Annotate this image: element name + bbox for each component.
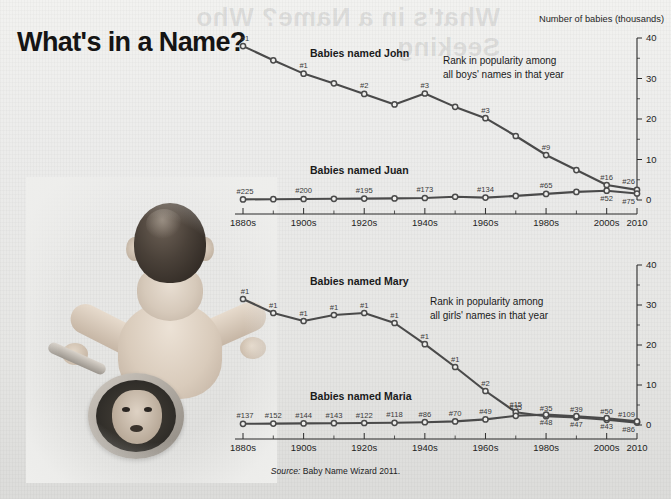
svg-text:#52: #52 (600, 194, 613, 203)
svg-text:Babies named John: Babies named John (310, 47, 409, 59)
svg-text:#173: #173 (416, 185, 433, 194)
svg-text:0: 0 (646, 194, 651, 205)
svg-text:1940s: 1940s (412, 442, 438, 453)
charts-svg: 01020304020101880s1900s1920s1940s1960s19… (0, 0, 671, 499)
svg-text:1900s: 1900s (291, 442, 317, 453)
svg-text:30: 30 (646, 73, 657, 84)
svg-text:1960s: 1960s (473, 442, 499, 453)
svg-text:#1: #1 (299, 309, 307, 318)
svg-text:#134: #134 (477, 185, 494, 194)
svg-text:10: 10 (646, 154, 657, 165)
svg-text:#195: #195 (356, 186, 373, 195)
svg-text:40: 40 (646, 259, 657, 270)
svg-text:40: 40 (646, 32, 657, 43)
svg-text:#1: #1 (299, 61, 307, 70)
svg-text:20: 20 (646, 339, 657, 350)
svg-text:2010: 2010 (626, 442, 647, 453)
svg-text:1880s: 1880s (230, 442, 256, 453)
svg-text:30: 30 (646, 299, 657, 310)
svg-text:10: 10 (646, 379, 657, 390)
svg-text:#1: #1 (360, 301, 368, 310)
svg-text:2000s: 2000s (594, 442, 620, 453)
svg-text:#49: #49 (479, 407, 492, 416)
svg-text:1960s: 1960s (473, 217, 499, 228)
svg-text:Babies named Maria: Babies named Maria (310, 390, 412, 402)
svg-text:#1: #1 (269, 301, 277, 310)
svg-text:#48: #48 (540, 418, 553, 427)
svg-text:#9: #9 (542, 143, 550, 152)
unit-label: Number of babies (thousands) (539, 14, 664, 24)
svg-text:#1: #1 (451, 355, 459, 364)
svg-text:1980s: 1980s (533, 442, 559, 453)
chart-girls-names: 01020304020101880s1900s1920s1940s1960s19… (230, 259, 657, 453)
svg-text:all girls' names in that year: all girls' names in that year (430, 310, 549, 321)
svg-text:#2: #2 (481, 379, 489, 388)
source-line: Source: Baby Name Wizard 2011. (0, 466, 671, 476)
svg-text:2000s: 2000s (594, 217, 620, 228)
svg-text:#143: #143 (325, 411, 342, 420)
svg-text:#75: #75 (622, 197, 635, 206)
svg-text:#152: #152 (265, 411, 282, 420)
source-prefix: Source: (271, 466, 301, 476)
svg-text:Babies named Mary: Babies named Mary (310, 275, 409, 287)
svg-text:Babies named Juan: Babies named Juan (310, 164, 409, 176)
svg-text:#200: #200 (295, 186, 312, 195)
svg-text:all boys' names in that year: all boys' names in that year (443, 69, 565, 80)
svg-text:1920s: 1920s (351, 442, 377, 453)
svg-text:1980s: 1980s (533, 217, 559, 228)
svg-text:Rank in popularity among: Rank in popularity among (443, 55, 556, 66)
svg-text:#47: #47 (570, 420, 583, 429)
svg-text:#1: #1 (421, 332, 429, 341)
svg-text:#1: #1 (390, 311, 398, 320)
svg-text:#144: #144 (295, 411, 312, 420)
svg-text:#39: #39 (570, 405, 583, 414)
svg-text:1920s: 1920s (351, 217, 377, 228)
svg-text:#118: #118 (386, 410, 402, 419)
svg-text:#65: #65 (540, 181, 553, 190)
svg-text:#70: #70 (449, 409, 462, 418)
svg-text:#122: #122 (356, 411, 373, 420)
svg-text:0: 0 (646, 419, 651, 430)
chart-boys-names: 01020304020101880s1900s1920s1940s1960s19… (230, 32, 657, 228)
svg-text:#3: #3 (481, 106, 489, 115)
svg-text:#109: #109 (618, 410, 635, 419)
source-text: Baby Name Wizard 2011. (303, 466, 400, 476)
svg-text:#86: #86 (419, 410, 432, 419)
svg-text:20: 20 (646, 113, 657, 124)
svg-text:1880s: 1880s (230, 217, 256, 228)
svg-text:#43: #43 (600, 422, 613, 431)
svg-text:#2: #2 (360, 81, 368, 90)
svg-text:2010: 2010 (626, 217, 647, 228)
svg-text:#1: #1 (241, 34, 249, 43)
svg-text:1940s: 1940s (412, 217, 438, 228)
svg-text:#137: #137 (237, 411, 254, 420)
svg-text:#225: #225 (237, 187, 254, 196)
svg-text:#3: #3 (421, 81, 429, 90)
svg-text:#1: #1 (241, 287, 249, 296)
svg-text:1900s: 1900s (291, 217, 317, 228)
svg-text:#86: #86 (622, 425, 635, 434)
svg-text:Rank in popularity among: Rank in popularity among (430, 296, 543, 307)
svg-text:#26: #26 (622, 177, 635, 186)
svg-text:#35: #35 (509, 403, 522, 412)
svg-text:#16: #16 (600, 173, 613, 182)
svg-text:#1: #1 (330, 303, 338, 312)
